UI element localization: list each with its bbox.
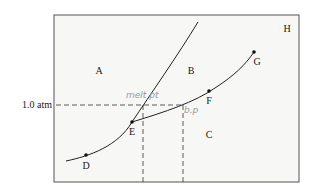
handwritten-annotation: melt pt: [126, 90, 159, 100]
point-e: [130, 120, 134, 124]
point-g: [252, 50, 256, 54]
region-label-b: B: [188, 65, 195, 76]
point-label-d: D: [82, 160, 89, 171]
region-label-a: A: [95, 65, 103, 76]
point-label-f: F: [206, 95, 212, 106]
region-label-h: H: [283, 23, 290, 34]
region-label-c: C: [206, 129, 213, 140]
point-f: [207, 89, 211, 93]
point-d: [84, 153, 88, 157]
phase-diagram: 1.0 atm ABCH DEFG melt ptb.p: [0, 0, 311, 195]
point-label-e: E: [129, 126, 135, 137]
handwritten-annotation: b.p: [184, 105, 199, 115]
pressure-label: 1.0 atm: [22, 99, 52, 110]
point-label-g: G: [253, 56, 260, 67]
plot-frame: [54, 15, 299, 182]
